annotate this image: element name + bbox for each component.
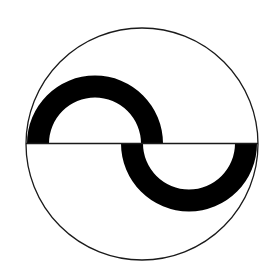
diagram-canvas: [0, 0, 279, 277]
